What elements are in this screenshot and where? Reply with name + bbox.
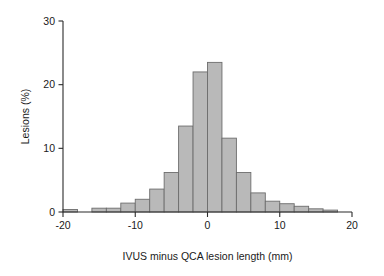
histogram-bar [265, 201, 279, 212]
y-axis-title: Lesions (%) [19, 89, 31, 144]
x-tick-label: -10 [128, 219, 143, 231]
histogram-bar [208, 62, 222, 212]
histogram-bar [193, 72, 207, 212]
histogram-bar [222, 138, 236, 212]
histogram-bar [150, 189, 164, 212]
histogram-bar [294, 206, 308, 212]
histogram-bar [251, 193, 265, 212]
histogram-figure: 0102030-20-1001020IVUS minus QCA lesion … [0, 0, 384, 276]
x-tick-label: 20 [346, 219, 358, 231]
x-tick-label: 10 [274, 219, 286, 231]
histogram-bar [92, 208, 106, 212]
histogram-bar [121, 203, 135, 212]
x-ticks-group: -20-1001020 [55, 212, 358, 231]
y-tick-label: 20 [43, 78, 55, 90]
y-tick-label: 0 [49, 206, 55, 218]
y-tick-label: 30 [43, 15, 55, 27]
y-tick-label: 10 [43, 142, 55, 154]
histogram-bar [164, 173, 178, 212]
histogram-bar [135, 199, 149, 212]
bars-group [63, 62, 338, 212]
x-tick-label: -20 [55, 219, 70, 231]
histogram-bar [179, 126, 193, 212]
y-ticks-group: 0102030 [43, 15, 63, 218]
x-axis-title: IVUS minus QCA lesion length (mm) [123, 250, 293, 262]
histogram-bar [236, 173, 250, 212]
histogram-plot: 0102030-20-1001020IVUS minus QCA lesion … [0, 0, 384, 276]
histogram-bar [106, 208, 120, 212]
histogram-bar [280, 204, 294, 212]
x-tick-label: 0 [205, 219, 211, 231]
